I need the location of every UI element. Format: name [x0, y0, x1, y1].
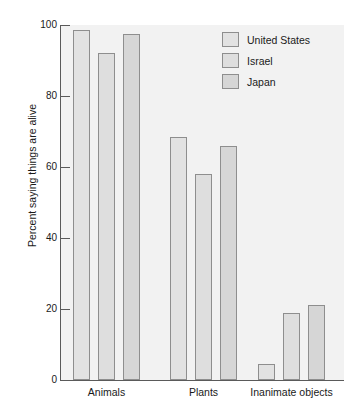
y-tick-mark — [61, 238, 70, 239]
bar — [98, 53, 115, 380]
y-tick-mark — [61, 25, 70, 26]
legend-item-united-states: United States — [222, 30, 342, 49]
bar — [308, 305, 325, 380]
y-tick-mark — [61, 167, 70, 168]
x-axis-line — [60, 380, 344, 381]
y-tick-mark — [61, 96, 70, 97]
bar — [195, 174, 212, 380]
bar — [170, 137, 187, 380]
y-tick-label-text: 100 — [40, 20, 57, 30]
legend-label-united-states: United States — [247, 34, 310, 46]
bar — [220, 146, 237, 380]
y-tick-label-text: 40 — [46, 233, 57, 243]
legend-item-japan: Japan — [222, 72, 342, 91]
bar — [73, 30, 90, 380]
y-tick-mark — [61, 380, 70, 381]
legend-swatch-japan — [222, 74, 239, 89]
y-tick-label-text: 20 — [46, 304, 57, 314]
bar — [123, 34, 140, 380]
legend: United States Israel Japan — [222, 30, 342, 93]
y-tick-label-text: 0 — [51, 375, 57, 385]
legend-label-israel: Israel — [247, 55, 273, 67]
bar — [258, 364, 275, 380]
legend-swatch-united-states — [222, 32, 239, 47]
legend-swatch-israel — [222, 53, 239, 68]
y-tick-label-text: 60 — [46, 162, 57, 172]
y-tick-mark — [61, 309, 70, 310]
y-axis-title: Percent saying things are alive — [27, 76, 38, 276]
legend-item-israel: Israel — [222, 51, 342, 70]
y-axis-line — [60, 25, 61, 381]
x-axis-category-label: Inanimate objects — [232, 386, 352, 398]
bar-chart: 020406080100 Percent saying things are a… — [0, 0, 352, 414]
bar — [283, 313, 300, 380]
legend-label-japan: Japan — [247, 76, 276, 88]
y-tick-label-text: 80 — [46, 91, 57, 101]
